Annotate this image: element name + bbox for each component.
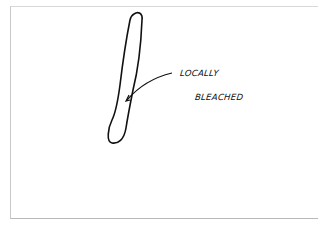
- annotation-line-1: LOCALLY: [179, 68, 219, 78]
- sketch-drawing: [0, 0, 318, 225]
- elongated-shape-outline: [108, 13, 142, 143]
- annotation-line-2: BLEACHED: [194, 92, 243, 102]
